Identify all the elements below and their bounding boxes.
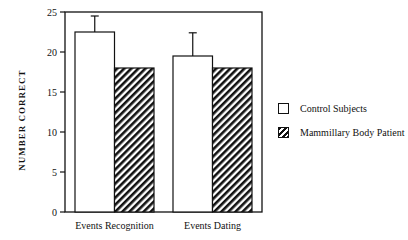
y-axis: 0510152025 [47, 7, 65, 218]
svg-text:15: 15 [47, 87, 57, 98]
svg-text:Events Recognition: Events Recognition [75, 220, 154, 231]
legend-label: Control Subjects [300, 103, 367, 114]
hatched-swatch-icon [278, 127, 289, 138]
svg-text:0: 0 [52, 207, 57, 218]
legend-label: Mammillary Body Patient [300, 127, 404, 138]
white-swatch-icon [278, 103, 289, 114]
legend: Control Subjects Mammillary Body Patient [278, 96, 404, 144]
y-axis-label: NUMBER CORRECT [17, 69, 27, 170]
svg-text:Events Dating: Events Dating [184, 220, 241, 231]
svg-text:25: 25 [47, 7, 57, 18]
svg-text:10: 10 [47, 127, 57, 138]
svg-text:5: 5 [52, 167, 57, 178]
svg-text:20: 20 [47, 47, 57, 58]
legend-item-patient: Mammillary Body Patient [278, 120, 404, 144]
bars [75, 16, 252, 212]
legend-item-control: Control Subjects [278, 96, 404, 120]
x-axis-labels: Events RecognitionEvents Dating [75, 220, 241, 231]
